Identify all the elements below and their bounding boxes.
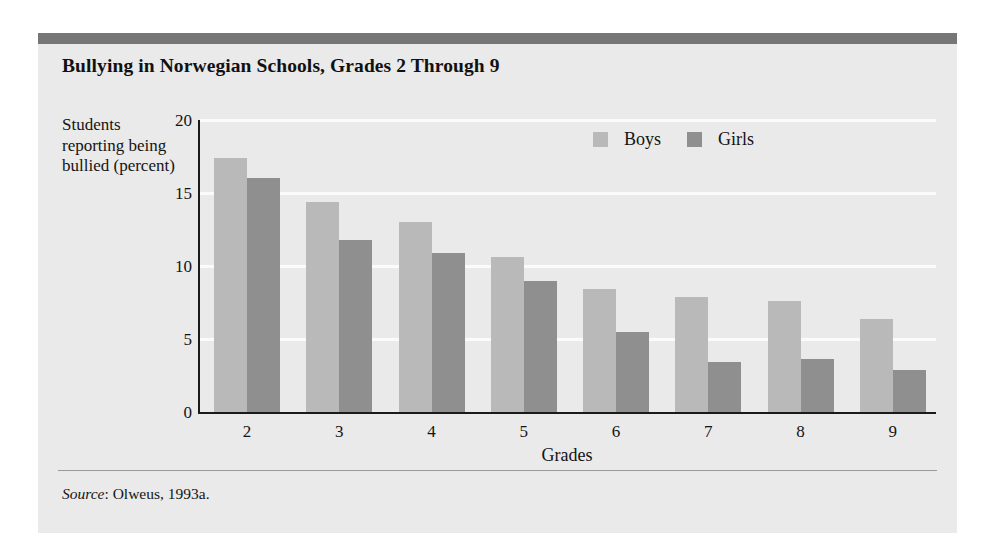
legend-label-girls: Girls (718, 129, 754, 150)
legend-label-boys: Boys (624, 129, 661, 150)
chart-legend: Boys Girls (593, 129, 754, 150)
source-divider (58, 470, 937, 471)
y-axis-tick-15: 15 (152, 185, 192, 202)
x-axis-tick-9: 9 (863, 422, 923, 442)
legend-item-girls: Girls (687, 129, 754, 150)
bar-boys-grade-7 (675, 297, 708, 412)
x-axis-tick-4: 4 (402, 422, 462, 442)
y-axis-tick-0: 0 (152, 404, 192, 421)
bar-girls-grade-5 (524, 281, 557, 412)
x-axis-line (198, 412, 936, 414)
x-axis-tick-3: 3 (309, 422, 369, 442)
x-axis-tick-6: 6 (586, 422, 646, 442)
source-citation: : Olweus, 1993a. (104, 485, 209, 502)
bar-boys-grade-9 (860, 319, 893, 412)
bar-girls-grade-8 (801, 359, 834, 412)
bar-girls-grade-2 (247, 178, 280, 412)
figure-top-rule (38, 33, 957, 44)
legend-item-boys: Boys (593, 129, 661, 150)
figure-panel: Bullying in Norwegian Schools, Grades 2 … (38, 33, 957, 533)
x-axis-tick-5: 5 (494, 422, 554, 442)
x-axis-tick-8: 8 (771, 422, 831, 442)
bar-girls-grade-9 (893, 370, 926, 412)
source-note: Source: Olweus, 1993a. (62, 485, 210, 503)
bar-girls-grade-3 (339, 240, 372, 412)
bar-girls-grade-7 (708, 362, 741, 412)
gridline (200, 119, 936, 122)
bar-boys-grade-8 (768, 301, 801, 412)
legend-swatch-girls-icon (687, 132, 702, 147)
source-label: Source (62, 485, 104, 502)
y-axis-tick-5: 5 (152, 331, 192, 348)
bar-boys-grade-4 (399, 222, 432, 412)
y-axis-tick-10: 10 (152, 258, 192, 275)
gridline (200, 192, 936, 195)
x-axis-tick-7: 7 (678, 422, 738, 442)
bar-boys-grade-5 (491, 257, 524, 412)
legend-swatch-boys-icon (593, 132, 608, 147)
bar-girls-grade-4 (432, 253, 465, 412)
y-axis-tick-20: 20 (152, 112, 192, 129)
x-axis-tick-2: 2 (217, 422, 277, 442)
bar-boys-grade-3 (306, 202, 339, 412)
y-axis-tick-labels: 05101520 (148, 120, 192, 412)
bar-boys-grade-6 (583, 289, 616, 412)
figure-title: Bullying in Norwegian Schools, Grades 2 … (62, 55, 500, 77)
plot-area: 23456789 (198, 120, 936, 412)
bar-girls-grade-6 (616, 332, 649, 412)
bar-boys-grade-2 (214, 158, 247, 412)
x-axis-label: Grades (198, 445, 936, 466)
